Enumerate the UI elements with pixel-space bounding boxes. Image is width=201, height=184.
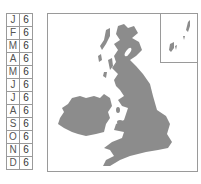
inset-frame (161, 14, 198, 63)
ireland-landmass (58, 94, 112, 136)
anglesey (117, 120, 123, 124)
british-isles-map (0, 0, 201, 184)
hebrides-islands (98, 28, 113, 78)
isle-of-man (116, 107, 120, 113)
